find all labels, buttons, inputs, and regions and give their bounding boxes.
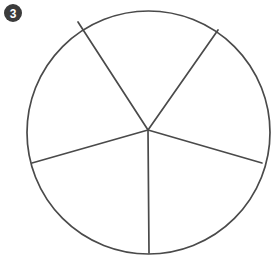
figure-number-badge: 3 [4,4,22,22]
figure-root: 3 [0,0,277,261]
pie-slice-divider-4 [148,130,149,253]
pie-figure: 3 [0,0,277,261]
pie-chart-group [27,11,270,254]
badge-label: 3 [10,7,17,21]
